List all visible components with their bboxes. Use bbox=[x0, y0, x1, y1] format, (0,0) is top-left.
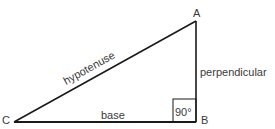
hypotenuse-line bbox=[14, 21, 196, 122]
triangle-diagram: 90° A B C hypotenuse perpendicular base bbox=[0, 0, 275, 129]
perpendicular-label: perpendicular bbox=[200, 66, 267, 78]
base-label: base bbox=[101, 109, 125, 121]
vertex-label-c: C bbox=[2, 114, 10, 126]
vertex-label-a: A bbox=[193, 7, 201, 19]
right-angle-label: 90° bbox=[175, 106, 192, 118]
vertex-label-b: B bbox=[201, 114, 208, 126]
